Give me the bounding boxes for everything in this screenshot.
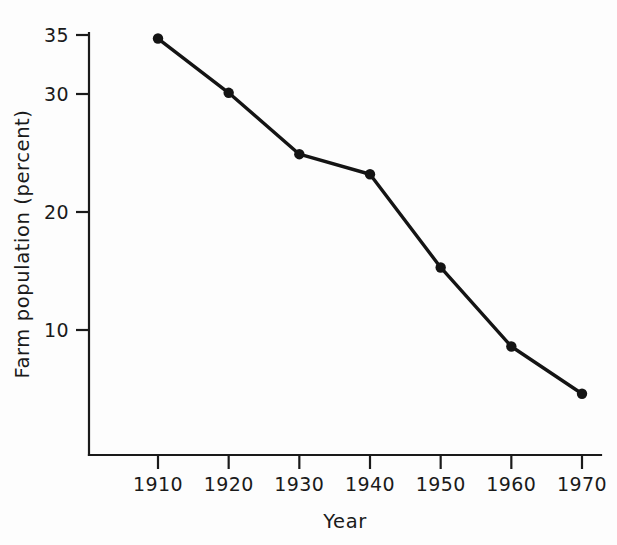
- y-axis-ticks: [76, 35, 89, 330]
- data-point-marker: 1910: 34.7: [153, 33, 163, 43]
- chart-plot-area: 35302010 1910192019301940195019601970 19…: [0, 0, 617, 545]
- y-tick-label: 10: [44, 319, 69, 341]
- data-series-markers: 1910: 34.71920: 30.11930: 24.91940: 23.2…: [153, 33, 587, 399]
- y-tick-label: 30: [44, 83, 69, 105]
- x-tick-label: 1930: [274, 473, 324, 495]
- data-point-marker: 1940: 23.2: [365, 169, 375, 179]
- y-axis-title: Farm population (percent): [11, 109, 34, 378]
- data-point-marker: 1970: 4.6: [577, 389, 587, 399]
- x-tick-label: 1920: [204, 473, 254, 495]
- x-axis-ticks: [158, 455, 582, 469]
- line-chart: 35302010 1910192019301940195019601970 19…: [0, 0, 617, 545]
- x-axis-title: Year: [322, 510, 367, 533]
- y-axis-tick-labels: 35302010: [44, 24, 69, 341]
- data-point-marker: 1950: 15.3: [435, 262, 445, 272]
- x-tick-label: 1970: [557, 473, 607, 495]
- x-tick-label: 1960: [486, 473, 536, 495]
- data-point-marker: 1960: 8.6: [506, 341, 516, 351]
- data-series-line: [158, 39, 582, 394]
- y-tick-label: 20: [44, 201, 69, 223]
- x-tick-label: 1940: [345, 473, 395, 495]
- y-tick-label: 35: [44, 24, 69, 46]
- x-tick-label: 1950: [416, 473, 466, 495]
- x-axis-tick-labels: 1910192019301940195019601970: [133, 473, 607, 495]
- data-point-marker: 1920: 30.1: [223, 88, 233, 98]
- data-point-marker: 1930: 24.9: [294, 149, 304, 159]
- x-tick-label: 1910: [133, 473, 183, 495]
